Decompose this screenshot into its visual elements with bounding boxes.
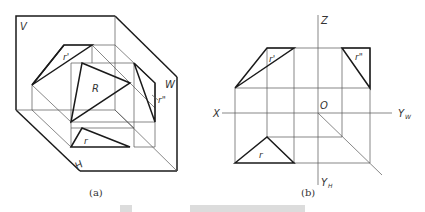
h-plane-label: H bbox=[73, 158, 85, 172]
yw-axis-label: Y bbox=[398, 108, 405, 119]
top-view-label: r bbox=[259, 150, 264, 160]
yw-axis-subscript: W bbox=[405, 113, 412, 120]
yh-axis-label: Y bbox=[321, 177, 328, 188]
construction-line bbox=[115, 110, 134, 128]
yh-axis-subscript: H bbox=[328, 182, 333, 189]
panel-b-orthographic: Z X O Y W Y H r' r" r (b) bbox=[212, 15, 412, 198]
surface-r-label: R bbox=[92, 83, 99, 94]
z-axis-label: Z bbox=[320, 15, 329, 26]
top-projection-label: r bbox=[84, 136, 89, 146]
w-plane-label: W bbox=[165, 79, 176, 90]
top-projection-r bbox=[71, 128, 130, 147]
front-projection-edge bbox=[32, 45, 64, 85]
panel-a-pictorial: V W H R r' r" r (a) bbox=[16, 16, 177, 198]
cropped-caption-fragment bbox=[190, 205, 305, 212]
projection-figure: V W H R r' r" r (a) Z X O Y bbox=[0, 0, 425, 212]
construction-line bbox=[92, 45, 155, 108]
front-projection-r-prime bbox=[32, 45, 92, 85]
panel-b-caption: (b) bbox=[301, 187, 315, 198]
front-view-label: r' bbox=[269, 54, 275, 64]
side-projection-r-double-prime bbox=[134, 63, 155, 122]
front-view-r-prime bbox=[235, 48, 294, 88]
construction-line bbox=[32, 85, 71, 122]
w-plane-top-edge bbox=[115, 16, 177, 77]
v-plane-label: V bbox=[20, 21, 28, 32]
panel-a-caption: (a) bbox=[89, 187, 103, 198]
plane-r bbox=[71, 63, 130, 122]
h-plane-left-edge bbox=[16, 110, 80, 171]
45-degree-line bbox=[318, 113, 382, 175]
x-axis-label: X bbox=[212, 108, 221, 119]
cropped-caption-fragment bbox=[120, 205, 132, 212]
front-projection-label: r' bbox=[63, 52, 69, 62]
side-view-label: r" bbox=[355, 52, 363, 62]
origin-label: O bbox=[320, 100, 328, 111]
top-view-r bbox=[235, 137, 294, 163]
construction-line bbox=[32, 110, 71, 147]
side-projection-label: r" bbox=[158, 95, 166, 105]
